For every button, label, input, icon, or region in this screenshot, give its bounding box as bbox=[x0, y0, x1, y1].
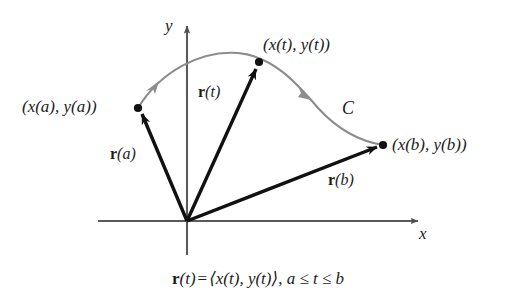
y-axis-label: y bbox=[165, 17, 173, 34]
vector-arg-r-t: (t) bbox=[205, 83, 220, 100]
vectors-group bbox=[142, 69, 377, 221]
equation-equals: = bbox=[196, 269, 210, 288]
vector-r-a bbox=[142, 114, 187, 221]
point-dot-end bbox=[379, 141, 387, 149]
equation-components: ⟨x(t), y(t)⟩ bbox=[209, 269, 278, 288]
vector-label-r-b: r(b) bbox=[328, 172, 354, 188]
equation-vector-name: r bbox=[172, 269, 180, 288]
point-dot-param bbox=[255, 58, 263, 66]
equation-domain: a ≤ t ≤ b bbox=[287, 269, 344, 288]
curve-label-C: C bbox=[342, 99, 354, 117]
point-label-end: (x(b), y(b)) bbox=[392, 136, 467, 153]
point-dot-start bbox=[134, 104, 142, 112]
equation-separator: , bbox=[278, 269, 282, 288]
equation-vector-arg: (t) bbox=[180, 269, 196, 288]
vector-label-r-a: r(a) bbox=[110, 146, 136, 162]
point-label-start: (x(a), y(a)) bbox=[22, 98, 97, 115]
vector-label-r-t: r(t) bbox=[198, 84, 220, 100]
x-axis-label: x bbox=[419, 225, 427, 242]
point-label-param: (x(t), y(t)) bbox=[263, 36, 330, 53]
vector-arg-r-a: (a) bbox=[117, 145, 136, 162]
caption-equation: r(t)=⟨x(t), y(t)⟩, a ≤ t ≤ b bbox=[0, 268, 516, 289]
curve-direction-arrow-1 bbox=[146, 81, 159, 94]
vector-arg-r-b: (b) bbox=[335, 171, 354, 188]
